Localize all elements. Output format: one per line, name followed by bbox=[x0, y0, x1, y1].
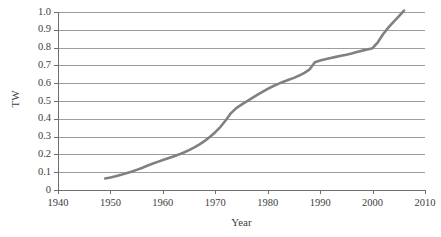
x-tick-label: 1980 bbox=[248, 198, 288, 209]
y-tick-label: 0.1 bbox=[38, 167, 51, 178]
tick-marks-group bbox=[54, 13, 426, 195]
y-tick-label: 0.6 bbox=[38, 78, 51, 89]
y-tick-label: 0 bbox=[46, 185, 51, 196]
y-axis-title: TW bbox=[9, 90, 21, 107]
y-tick-label: 0.4 bbox=[38, 113, 51, 124]
y-tick-label: 0.2 bbox=[38, 149, 51, 160]
y-tick-label: 0.8 bbox=[38, 42, 51, 53]
chart-figure: 00.10.20.30.40.50.60.70.80.91.0 19401950… bbox=[0, 0, 441, 237]
y-tick-label: 0.5 bbox=[38, 96, 51, 107]
y-tick-label: 1.0 bbox=[38, 7, 51, 18]
y-tick-label: 0.9 bbox=[38, 24, 51, 35]
y-tick-label: 0.3 bbox=[38, 131, 51, 142]
x-tick-label: 2010 bbox=[405, 198, 441, 209]
x-tick-label: 1990 bbox=[300, 198, 340, 209]
y-tick-label: 0.7 bbox=[38, 60, 51, 71]
x-tick-label: 2000 bbox=[353, 198, 393, 209]
series-line bbox=[105, 11, 404, 179]
x-tick-label: 1960 bbox=[143, 198, 183, 209]
gridlines-group bbox=[58, 13, 425, 173]
x-tick-label: 1950 bbox=[90, 198, 130, 209]
data-series-group bbox=[105, 11, 404, 179]
x-tick-label: 1940 bbox=[38, 198, 78, 209]
x-axis-title: Year bbox=[58, 216, 425, 228]
x-tick-label: 1970 bbox=[195, 198, 235, 209]
